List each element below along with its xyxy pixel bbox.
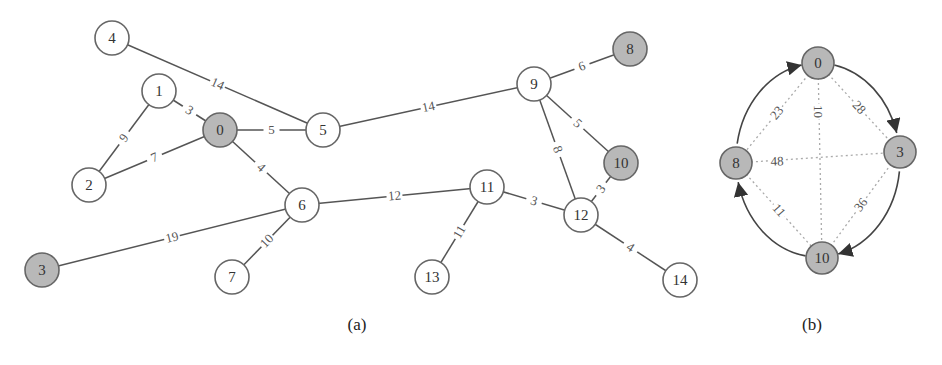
graph-b-node-8: 8 <box>720 147 752 179</box>
node-label: 3 <box>896 144 904 160</box>
svg-text:14: 14 <box>209 74 227 93</box>
edge-weight: 14 <box>419 97 438 115</box>
edge-weight: 28 <box>848 96 870 118</box>
edge-weight: 11 <box>449 221 470 242</box>
node-label: 8 <box>626 41 634 57</box>
edge-weight: 10 <box>811 104 826 120</box>
caption-b: (b) <box>802 315 822 334</box>
edge-weight: 23 <box>766 102 788 124</box>
node-label: 14 <box>673 272 689 288</box>
caption-a: (a) <box>348 315 367 334</box>
edge-weight: 3 <box>179 99 201 120</box>
edge-weight: 3 <box>590 178 612 200</box>
graph-a-nodes: 01234567891011121314 <box>25 21 697 297</box>
graph-b-nodes: 03108 <box>720 47 916 274</box>
node-label: 6 <box>298 197 306 213</box>
graph-a-node-6: 6 <box>285 188 319 222</box>
graph-a-node-5: 5 <box>306 113 340 147</box>
svg-text:11: 11 <box>770 200 790 219</box>
cycle-edge-10-8 <box>738 182 805 256</box>
graph-a-node-1: 1 <box>142 74 176 108</box>
node-label: 0 <box>814 55 822 71</box>
node-label: 13 <box>425 269 440 285</box>
node-label: 1 <box>155 83 163 99</box>
graph-b-node-0: 0 <box>802 47 834 79</box>
node-label: 7 <box>228 269 236 285</box>
graph-a-node-7: 7 <box>215 260 249 294</box>
node-label: 12 <box>574 207 589 223</box>
graph-a: 14397541465831219103114 0123456789101112… <box>25 21 697 334</box>
edge-weight: 9 <box>113 127 135 149</box>
graph-a-node-3: 3 <box>25 253 59 287</box>
edge-weight: 36 <box>850 194 872 216</box>
svg-text:48: 48 <box>770 153 784 168</box>
edge-weight: 11 <box>768 199 790 221</box>
node-label: 9 <box>530 76 538 92</box>
edge-weight: 6 <box>572 56 592 76</box>
edge-weight: 19 <box>162 228 181 246</box>
svg-text:11: 11 <box>449 222 468 241</box>
node-label: 10 <box>614 155 629 171</box>
graph-a-node-9: 9 <box>517 67 551 101</box>
edge-weight: 14 <box>207 73 228 93</box>
dotted-edge-8-10: 11 <box>736 163 822 258</box>
edge-weight: 5 <box>264 122 280 137</box>
graph-a-node-13: 13 <box>415 260 449 294</box>
node-label: 3 <box>38 262 46 278</box>
dotted-edge-0-8: 23 <box>736 63 818 163</box>
svg-text:23: 23 <box>767 103 787 123</box>
svg-text:36: 36 <box>851 195 871 215</box>
graph-a-node-2: 2 <box>72 168 106 202</box>
svg-text:12: 12 <box>387 187 401 203</box>
svg-text:5: 5 <box>268 122 275 137</box>
graph-a-node-4: 4 <box>95 21 129 55</box>
svg-text:10: 10 <box>811 105 826 118</box>
node-label: 4 <box>108 30 116 46</box>
graph-b: 232810481136 03108 (b) <box>720 47 916 334</box>
graph-a-node-11: 11 <box>470 170 504 204</box>
figure-canvas: 14397541465831219103114 0123456789101112… <box>0 0 942 365</box>
graph-a-node-12: 12 <box>564 198 598 232</box>
cycle-edge-3-10 <box>838 171 899 254</box>
graph-b-node-3: 3 <box>884 136 916 168</box>
node-label: 5 <box>319 122 327 138</box>
dotted-edge-0-10: 10 <box>811 63 826 258</box>
graph-b-node-10: 10 <box>806 242 838 274</box>
edge-weight: 3 <box>524 191 544 210</box>
graph-a-node-8: 8 <box>613 32 647 66</box>
node-label: 0 <box>216 122 224 138</box>
graph-a-node-10: 10 <box>604 146 638 180</box>
edge-6-11: 12 <box>302 187 487 205</box>
node-label: 10 <box>815 250 830 266</box>
cycle-edge-0-3 <box>834 65 896 133</box>
graph-a-node-14: 14 <box>663 263 697 297</box>
edge-weight: 7 <box>144 147 165 167</box>
edge-weight: 48 <box>769 153 786 169</box>
edge-5-9: 14 <box>323 84 534 130</box>
node-label: 11 <box>480 179 494 195</box>
cycle-edge-8-0 <box>737 65 802 144</box>
edge-weight: 12 <box>386 187 403 203</box>
graph-a-edges: 14397541465831219103114 <box>42 38 680 280</box>
edge-weight: 4 <box>620 236 642 257</box>
graph-a-node-0: 0 <box>203 113 237 147</box>
edge-weight: 8 <box>548 139 568 159</box>
node-label: 2 <box>85 177 93 193</box>
dotted-edge-8-3: 48 <box>736 152 900 169</box>
node-label: 8 <box>732 155 740 171</box>
